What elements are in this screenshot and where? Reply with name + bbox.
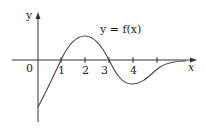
curve-label: y = f(x): [99, 23, 141, 36]
x-tick-label-2: 2: [82, 64, 89, 77]
x-tick-label-3: 3: [101, 64, 108, 77]
y-axis-label: y: [25, 9, 33, 22]
function-graph: y x 0 1 2 3 4 y = f(x): [0, 0, 205, 129]
y-axis-arrow-icon: [36, 12, 41, 19]
x-tick-label-4: 4: [130, 64, 137, 77]
x-axis-label: x: [188, 61, 195, 74]
origin-label: 0: [26, 62, 33, 75]
x-tick-label-1: 1: [58, 64, 65, 77]
